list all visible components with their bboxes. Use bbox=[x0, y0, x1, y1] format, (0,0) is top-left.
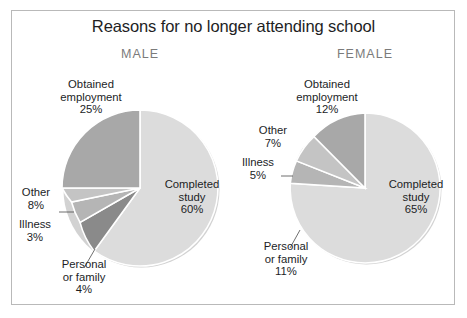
label-male-other-percent: 8% bbox=[14, 199, 58, 212]
label-male-personal-line1: Personal bbox=[62, 258, 107, 270]
label-female-other-name: Other bbox=[259, 124, 287, 136]
label-female-completed-line1: Completed bbox=[389, 178, 444, 190]
label-male-other-name: Other bbox=[22, 186, 50, 198]
label-male-personal-line2: or family bbox=[63, 271, 106, 283]
label-female-personal-percent: 11% bbox=[238, 265, 334, 278]
label-female-personal-line2: or family bbox=[265, 253, 308, 265]
label-female-personal-or-family: Personal or family 11% bbox=[238, 240, 334, 278]
label-male-obtained-employment-line1: Obtained bbox=[68, 78, 114, 90]
label-male-personal-or-family: Personal or family 4% bbox=[36, 258, 132, 296]
label-male-obtained-employment-percent: 25% bbox=[36, 103, 146, 116]
label-male-illness-name: Illness bbox=[19, 218, 51, 230]
label-female-other: Other 7% bbox=[250, 124, 296, 149]
label-female-other-percent: 7% bbox=[250, 137, 296, 150]
label-female-illness-percent: 5% bbox=[234, 169, 282, 182]
label-male-completed-line1: Completed bbox=[165, 178, 220, 190]
label-female-illness-name: Illness bbox=[242, 156, 274, 168]
label-female-completed-study: Completed study 65% bbox=[372, 178, 460, 216]
label-female-completed-percent: 65% bbox=[372, 203, 460, 216]
label-female-personal-line1: Personal bbox=[264, 240, 309, 252]
label-male-completed-percent: 60% bbox=[148, 203, 236, 216]
label-female-obtained-employment-line2: employment bbox=[296, 91, 358, 103]
label-female-obtained-employment-percent: 12% bbox=[272, 103, 382, 116]
label-female-completed-line2: study bbox=[402, 191, 429, 203]
label-female-obtained-employment-line1: Obtained bbox=[304, 78, 350, 90]
label-male-completed-study: Completed study 60% bbox=[148, 178, 236, 216]
label-male-obtained-employment: Obtained employment 25% bbox=[36, 78, 146, 116]
label-male-obtained-employment-line2: employment bbox=[60, 91, 122, 103]
label-female-illness: Illness 5% bbox=[234, 156, 282, 181]
label-male-illness-percent: 3% bbox=[12, 231, 58, 244]
label-female-obtained-employment: Obtained employment 12% bbox=[272, 78, 382, 116]
label-male-illness: Illness 3% bbox=[12, 218, 58, 243]
figure-root: Reasons for no longer attending school M… bbox=[0, 0, 467, 318]
label-male-other: Other 8% bbox=[14, 186, 58, 211]
label-male-personal-percent: 4% bbox=[36, 283, 132, 296]
pie-male-slice-obtained-employment[interactable] bbox=[62, 110, 140, 188]
label-male-completed-line2: study bbox=[178, 191, 205, 203]
